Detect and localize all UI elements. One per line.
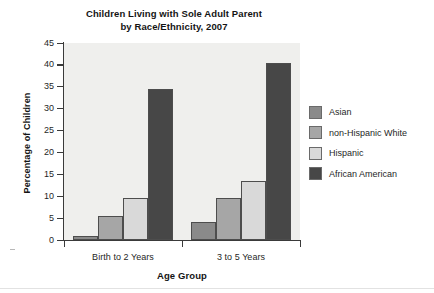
legend-swatch-icon xyxy=(309,147,322,160)
y-axis-tick-label: 0 xyxy=(28,236,54,245)
legend-item: African American xyxy=(309,164,407,185)
x-axis-group-label: 3 to 5 Years xyxy=(182,252,300,262)
legend-item-label: Asian xyxy=(329,107,352,117)
bar-asian-3-to-5-years xyxy=(191,222,216,240)
legend-item: Hispanic xyxy=(309,143,407,164)
y-axis-tick-label: 20 xyxy=(28,148,54,157)
y-axis-tick xyxy=(57,174,63,175)
bar-african-american-3-to-5-years xyxy=(266,63,291,240)
bar-non-hispanic-white-birth-to-2-years xyxy=(98,216,123,240)
scan-artifact-left xyxy=(10,249,15,250)
y-axis-tick xyxy=(57,86,63,87)
bar-chart: Children Living with Sole Adult Parent b… xyxy=(0,0,434,293)
y-axis-tick xyxy=(57,152,63,153)
bar-non-hispanic-white-3-to-5-years xyxy=(216,198,241,240)
legend-swatch-icon xyxy=(309,126,322,139)
y-axis-tick xyxy=(57,64,63,65)
scan-artifact-bottom xyxy=(0,288,434,289)
legend-swatch-icon xyxy=(309,167,322,180)
y-axis-tick xyxy=(57,130,63,131)
y-axis-line xyxy=(63,42,64,241)
y-axis-tick-label: 25 xyxy=(28,126,54,135)
bar-african-american-birth-to-2-years xyxy=(148,89,173,240)
legend-item: Asian xyxy=(309,102,407,123)
y-axis-tick-label: 45 xyxy=(28,39,54,48)
x-axis-tick xyxy=(182,241,183,247)
y-axis-tick-label: 40 xyxy=(28,60,54,69)
y-axis-tick xyxy=(57,43,63,44)
x-axis-tick xyxy=(64,241,65,247)
y-axis-tick xyxy=(57,108,63,109)
chart-title-line-2: by Race/Ethnicity, 2007 xyxy=(48,21,300,34)
x-axis-tick xyxy=(300,241,301,247)
y-axis-tick-label: 35 xyxy=(28,82,54,91)
chart-legend: Asiannon-Hispanic WhiteHispanicAfrican A… xyxy=(309,102,407,184)
legend-item-label: Hispanic xyxy=(329,148,364,158)
chart-title-line-1: Children Living with Sole Adult Parent xyxy=(86,8,262,19)
y-axis-tick xyxy=(57,196,63,197)
chart-title: Children Living with Sole Adult Parent b… xyxy=(48,8,300,33)
x-axis-group-label: Birth to 2 Years xyxy=(64,252,182,262)
legend-item: non-Hispanic White xyxy=(309,123,407,144)
y-axis-tick-label: 15 xyxy=(28,170,54,179)
legend-swatch-icon xyxy=(309,106,322,119)
x-axis-title: Age Group xyxy=(64,270,300,281)
legend-item-label: African American xyxy=(329,169,397,179)
bar-asian-birth-to-2-years xyxy=(73,236,98,240)
y-axis-tick-label: 30 xyxy=(28,104,54,113)
y-axis-tick xyxy=(57,218,63,219)
bar-hispanic-3-to-5-years xyxy=(241,181,266,240)
y-axis-tick-label: 10 xyxy=(28,192,54,201)
y-axis-tick xyxy=(57,240,63,241)
legend-item-label: non-Hispanic White xyxy=(329,128,407,138)
bar-hispanic-birth-to-2-years xyxy=(123,198,148,240)
y-axis-tick-label: 5 xyxy=(28,214,54,223)
